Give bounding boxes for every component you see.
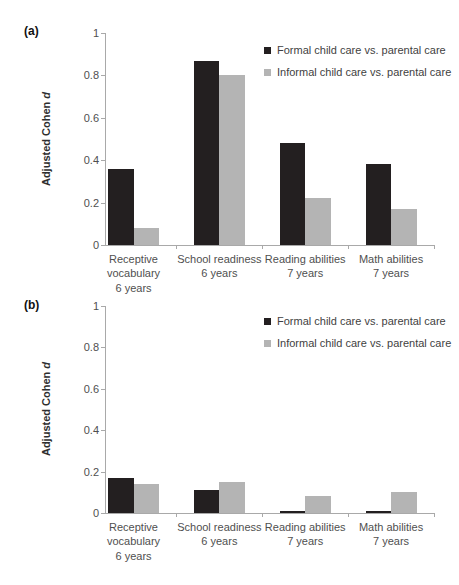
legend-label: Informal child care vs. parental care xyxy=(277,66,451,78)
y-tick-label: 0.2 xyxy=(67,465,99,479)
y-tick-label: 0.2 xyxy=(67,196,99,210)
bar-informal-3 xyxy=(391,209,417,245)
x-tick xyxy=(434,513,435,517)
y-tick-label: 1 xyxy=(67,26,99,40)
y-tick-label: 0.6 xyxy=(67,382,99,396)
x-tick xyxy=(176,245,177,249)
legend-item-formal: Formal child care vs. parental care xyxy=(264,314,446,328)
legend-label: Formal child care vs. parental care xyxy=(277,315,446,327)
y-tick-label: 0.4 xyxy=(67,423,99,437)
legend-swatch-informal xyxy=(264,340,271,347)
x-tick xyxy=(262,245,263,249)
bar-formal-2 xyxy=(280,143,306,245)
bar-informal-3 xyxy=(391,492,417,513)
figure: (a) Adjusted Cohend 00.20.40.60.81Recept… xyxy=(0,0,459,585)
y-tick xyxy=(101,245,105,246)
panel-b: (b) Adjusted Cohend 00.20.40.60.81Recept… xyxy=(0,290,459,585)
y-tick-label: 0.6 xyxy=(67,111,99,125)
x-tick xyxy=(348,245,349,249)
legend-item-formal: Formal child care vs. parental care xyxy=(264,43,446,57)
y-tick xyxy=(101,33,105,34)
bar-informal-1 xyxy=(219,482,245,513)
legend-swatch-informal xyxy=(264,69,271,76)
bar-informal-0 xyxy=(134,228,160,245)
bar-informal-0 xyxy=(134,484,160,513)
bar-informal-2 xyxy=(305,496,331,513)
y-tick-label: 0.4 xyxy=(67,153,99,167)
bar-informal-1 xyxy=(219,75,245,245)
y-axis-line xyxy=(105,306,106,514)
bar-informal-2 xyxy=(305,198,331,245)
x-tick xyxy=(434,245,435,249)
bar-formal-3 xyxy=(366,511,392,513)
legend-swatch-formal xyxy=(264,318,271,325)
bar-formal-1 xyxy=(194,61,220,245)
x-axis-line xyxy=(105,513,434,514)
category-label: Math abilities 7 years xyxy=(336,252,446,281)
y-tick xyxy=(101,118,105,119)
y-tick-label: 0.8 xyxy=(67,68,99,82)
y-tick-label: 0 xyxy=(67,238,99,252)
legend-label: Informal child care vs. parental care xyxy=(277,337,451,349)
plot-area-a: 00.20.40.60.81Receptive vocabulary 6 yea… xyxy=(0,0,459,290)
x-tick xyxy=(176,513,177,517)
y-tick xyxy=(101,160,105,161)
y-tick xyxy=(101,389,105,390)
legend-item-informal: Informal child care vs. parental care xyxy=(264,336,451,350)
panel-a: (a) Adjusted Cohend 00.20.40.60.81Recept… xyxy=(0,0,459,290)
y-tick xyxy=(101,306,105,307)
y-tick xyxy=(101,347,105,348)
y-tick xyxy=(101,430,105,431)
bar-formal-0 xyxy=(108,169,134,245)
bar-formal-1 xyxy=(194,490,220,513)
bar-formal-0 xyxy=(108,478,134,513)
plot-area-b: 00.20.40.60.81Receptive vocabulary 6 yea… xyxy=(0,290,459,585)
y-tick xyxy=(101,75,105,76)
legend-label: Formal child care vs. parental care xyxy=(277,44,446,56)
y-tick xyxy=(101,513,105,514)
bar-formal-3 xyxy=(366,164,392,245)
y-tick-label: 0.8 xyxy=(67,340,99,354)
bar-formal-2 xyxy=(280,511,306,513)
x-tick xyxy=(348,513,349,517)
legend-item-informal: Informal child care vs. parental care xyxy=(264,65,451,79)
category-label: Math abilities 7 years xyxy=(336,520,446,549)
x-axis-line xyxy=(105,245,434,246)
y-tick xyxy=(101,472,105,473)
y-axis-line xyxy=(105,33,106,246)
x-tick xyxy=(262,513,263,517)
y-tick xyxy=(101,203,105,204)
y-tick-label: 1 xyxy=(67,299,99,313)
legend-swatch-formal xyxy=(264,47,271,54)
y-tick-label: 0 xyxy=(67,506,99,520)
